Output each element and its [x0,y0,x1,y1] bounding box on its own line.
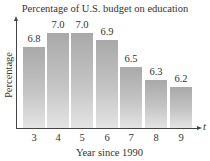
bar-5 [71,33,93,128]
bar-7 [120,67,142,128]
x-tick-label: 7 [120,132,142,143]
bar-value-label: 6.2 [166,73,196,84]
bar-8 [145,80,167,128]
bar-value-label: 6.9 [92,26,122,37]
x-tick-label: 5 [71,132,93,143]
x-tick-label: 8 [145,132,167,143]
bar-value-label: 6.8 [19,33,49,44]
y-axis-line [16,20,17,129]
x-axis-arrow-icon [197,126,202,130]
x-tick-label: 4 [47,132,69,143]
chart-title: Percentage of U.S. budget on education [0,3,210,14]
bar-value-label: 6.5 [116,53,146,64]
x-axis-label: Year since 1990 [17,147,202,158]
bar-6 [96,40,118,128]
x-axis-variable-label: t [203,121,206,132]
bar-4 [47,33,69,128]
x-tick-label: 9 [170,132,192,143]
bar-9 [170,87,192,128]
y-axis-arrow-icon [14,16,18,21]
x-tick-label: 3 [23,132,45,143]
bar-3 [23,47,45,128]
y-axis-label: Percentage [3,52,14,98]
x-tick-label: 6 [96,132,118,143]
x-axis-line [16,128,198,129]
